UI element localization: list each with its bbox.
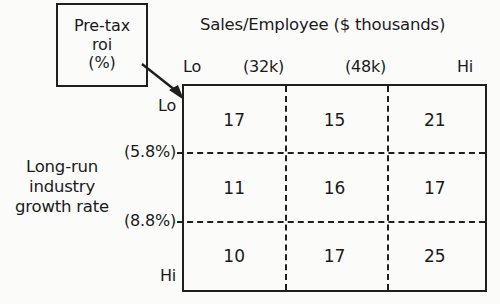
row-tick-label-hi: Hi: [100, 266, 176, 285]
row-tick-label-5-8-pct: (5.8%): [100, 142, 176, 161]
row-axis-title: Long-run industry growth rate: [0, 157, 124, 216]
matrix-cell: 17: [184, 86, 284, 154]
matrix-cell: 10: [184, 222, 284, 290]
roi-matrix-figure: Pre-tax roi (%) Sales/Employee ($ thousa…: [0, 0, 500, 304]
matrix-cell: 17: [284, 222, 384, 290]
roi-matrix: 17 15 21 11 16 17 10 17 25: [182, 84, 487, 292]
matrix-cell: 21: [385, 86, 485, 154]
column-tick-label-32k: (32k): [243, 57, 284, 76]
matrix-cell: 17: [385, 154, 485, 222]
row-tick-label-lo: Lo: [100, 96, 176, 115]
callout-line-3: (%): [88, 54, 115, 73]
callout-line-1: Pre-tax: [74, 17, 130, 36]
callout-line-2: roi: [92, 36, 112, 55]
matrix-cell: 25: [385, 222, 485, 290]
column-axis-title: Sales/Employee ($ thousands): [200, 15, 445, 34]
column-tick-label-hi: Hi: [457, 57, 473, 76]
matrix-cell: 15: [284, 86, 384, 154]
matrix-cell: 11: [184, 154, 284, 222]
row-axis-title-line-2: industry: [0, 177, 124, 197]
row-tick-label-8-8-pct: (8.8%): [100, 211, 176, 230]
pre-tax-roi-callout-box: Pre-tax roi (%): [56, 3, 148, 87]
column-tick-label-lo: Lo: [183, 57, 201, 76]
matrix-cell: 16: [284, 154, 384, 222]
column-tick-label-48k: (48k): [345, 57, 386, 76]
matrix-cell-grid: 17 15 21 11 16 17 10 17 25: [184, 86, 485, 290]
